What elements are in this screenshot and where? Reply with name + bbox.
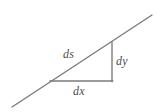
differential-triangle-figure: ds dy dx: [0, 0, 161, 112]
label-ds: ds: [63, 48, 74, 60]
label-dx: dx: [73, 85, 85, 97]
label-dy: dy: [116, 55, 128, 67]
